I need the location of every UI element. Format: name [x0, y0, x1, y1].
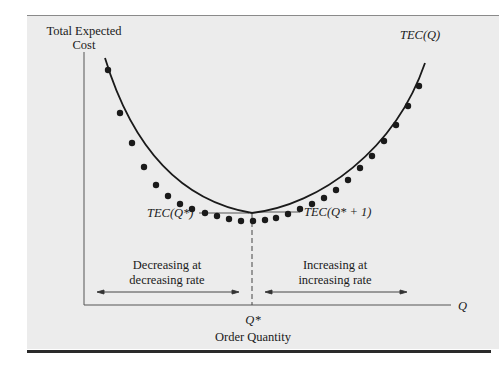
- curve-label: TEC(Q): [400, 28, 440, 42]
- x-axis-label: Order Quantity: [215, 330, 291, 344]
- left-region-label-line2: decreasing rate: [129, 273, 204, 287]
- right-region-label-line2: increasing rate: [298, 273, 371, 287]
- min-point-label: TEC(Q*): [147, 206, 194, 220]
- optimum-tick-label: Q*: [245, 313, 260, 327]
- right-region-arrow: [265, 290, 407, 294]
- tec-curve: [105, 58, 425, 213]
- curve-points: [105, 67, 422, 224]
- tec-diagram: [0, 0, 499, 366]
- x-axis-symbol: Q: [458, 299, 467, 313]
- left-region-label-line1: Decreasing at: [133, 258, 201, 272]
- next-point-label: TEC(Q* + 1): [304, 205, 371, 219]
- left-region-arrow: [97, 290, 239, 294]
- y-axis-label-line2: Cost: [73, 38, 96, 52]
- y-axis-label-line1: Total Expected: [46, 24, 121, 38]
- right-region-label-line1: Increasing at: [303, 258, 367, 272]
- bottom-rule: [27, 350, 491, 353]
